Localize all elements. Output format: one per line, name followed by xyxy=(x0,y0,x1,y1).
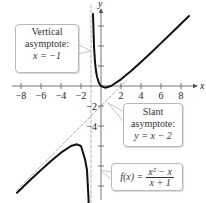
y-tick-label: −4 xyxy=(86,121,97,132)
fraction-numerator: x² − x xyxy=(146,167,174,178)
slant-callout-pointer xyxy=(108,103,124,122)
slant-asymptote-callout: Slant asymptote: y = x − 2 xyxy=(123,103,183,147)
x-tick-label: −6 xyxy=(36,90,47,101)
vertical-callout-pointer xyxy=(77,44,91,54)
x-tick-label: −2 xyxy=(76,90,87,101)
x-axis-label: x xyxy=(199,80,205,91)
function-callout: f(x) = x² − x x + 1 xyxy=(111,163,183,191)
callout-line: asymptote: xyxy=(124,118,182,130)
x-tick-label: 2 xyxy=(119,90,124,101)
x-tick-label: 6 xyxy=(159,90,164,101)
callout-line: Slant xyxy=(124,106,182,118)
x-tick-label: −4 xyxy=(56,90,67,101)
function-fraction: x² − x x + 1 xyxy=(146,167,174,188)
x-tick-label: −8 xyxy=(16,90,27,101)
curve-branch xyxy=(17,144,89,203)
callout-line: Vertical xyxy=(16,26,78,38)
function-lhs: f(x) = xyxy=(120,171,143,183)
y-axis-label: y xyxy=(97,0,103,9)
vertical-asymptote-callout: Vertical asymptote: x = −1 xyxy=(15,24,79,73)
x-tick-label: 4 xyxy=(139,90,144,101)
x-tick-label: 8 xyxy=(179,90,184,101)
curve-branch xyxy=(93,14,189,88)
callout-equation: y = x − 2 xyxy=(124,130,182,142)
y-tick-label: −2 xyxy=(86,101,97,112)
callout-equation: x = −1 xyxy=(16,50,78,62)
callout-line: asymptote: xyxy=(16,38,78,50)
fraction-denominator: x + 1 xyxy=(146,178,174,188)
